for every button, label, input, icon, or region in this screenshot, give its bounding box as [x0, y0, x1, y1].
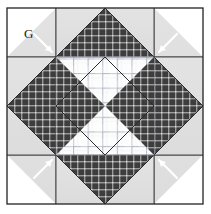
- edge-unit-bottom: [56, 155, 154, 204]
- edge-unit-left: [7, 57, 56, 155]
- label-g: G: [24, 26, 33, 41]
- edge-unit-top: [56, 8, 154, 57]
- quilt-block-figure: G: [0, 0, 211, 214]
- quilt-block-diagram: G: [0, 0, 211, 214]
- edge-unit-right: [154, 57, 203, 155]
